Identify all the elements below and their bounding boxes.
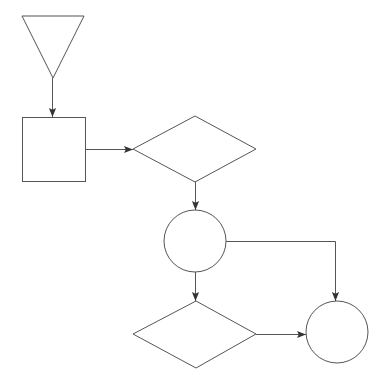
decision-diamond-node-1 <box>133 116 256 182</box>
decision-diamond-node-2 <box>133 301 256 368</box>
connector-circle-node-2 <box>306 301 368 363</box>
flowchart-canvas <box>0 0 383 388</box>
start-triangle-node <box>22 16 84 78</box>
process-rectangle-node <box>23 118 86 182</box>
edge-connector1-to-connector2 <box>226 242 336 302</box>
connector-circle-node-1 <box>164 210 226 272</box>
